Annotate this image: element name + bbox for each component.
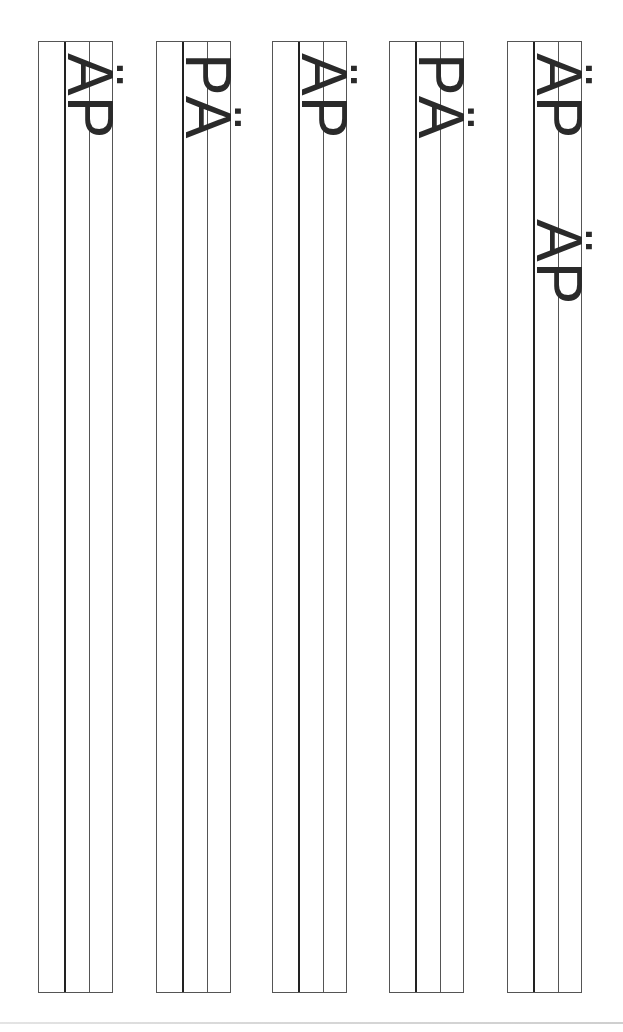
tracing-letters: ÄP <box>299 53 349 138</box>
midline-guide <box>89 42 90 992</box>
footer-divider <box>0 1022 623 1024</box>
baseline-guide <box>64 42 66 992</box>
practice-strip-4: PÄ <box>389 41 464 993</box>
tracing-letters: ÄP <box>534 219 584 304</box>
midline-guide <box>440 42 441 992</box>
midline-guide <box>207 42 208 992</box>
practice-strip-3: ÄP <box>272 41 347 993</box>
tracing-letters: PÄ <box>416 53 466 138</box>
practice-strip-5: ÄP ÄP <box>507 41 582 993</box>
midline-guide <box>323 42 324 992</box>
baseline-guide <box>182 42 184 992</box>
tracing-letters: PÄ <box>183 53 233 138</box>
practice-strip-1: ÄP <box>38 41 113 993</box>
tracing-letters: ÄP <box>65 53 115 138</box>
baseline-guide <box>298 42 300 992</box>
baseline-guide <box>533 42 535 992</box>
baseline-guide <box>415 42 417 992</box>
midline-guide <box>558 42 559 992</box>
practice-strip-2: PÄ <box>156 41 231 993</box>
tracing-letters: ÄP <box>534 53 584 138</box>
